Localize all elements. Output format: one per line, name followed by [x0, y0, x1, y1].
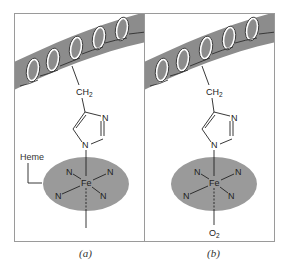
ring-n1: N [82, 140, 89, 150]
caption-b: (b) [207, 247, 220, 260]
iron-atom: Fe [209, 178, 220, 188]
iron-atom: Fe [81, 178, 92, 188]
ligand-n: N [194, 167, 201, 177]
ligand-n: N [107, 167, 114, 177]
ring-n3: N [231, 113, 238, 123]
heme-label: Heme [20, 152, 44, 162]
ligand-n: N [228, 191, 235, 201]
ligand-n: N [100, 191, 107, 201]
ring-n1: N [211, 140, 218, 150]
heme-figure: CH2 N N Fe N N N N [0, 0, 288, 274]
ligand-n: N [55, 191, 62, 201]
ligand-n: N [183, 191, 190, 201]
ring-n3: N [102, 113, 109, 123]
ligand-n: N [235, 167, 242, 177]
caption-a: (a) [79, 247, 92, 260]
ligand-n: N [66, 167, 73, 177]
